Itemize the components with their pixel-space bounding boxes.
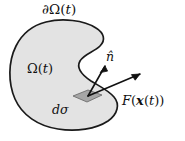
d-sigma-sigma-symbol: σ bbox=[60, 102, 69, 117]
force-x-symbol: x bbox=[135, 93, 144, 108]
region-diagram-svg: ∂Ω(t) Ω(t) dσ n̂ F(x(t)) bbox=[0, 0, 185, 141]
figure-container: ∂Ω(t) Ω(t) dσ n̂ F(x(t)) bbox=[0, 0, 185, 141]
force-close-paren: ) bbox=[159, 93, 164, 108]
d-sigma-label: dσ bbox=[52, 102, 69, 117]
boundary-close-paren: ) bbox=[71, 1, 76, 17]
domain-close-paren: ) bbox=[48, 61, 53, 76]
domain-omega-symbol: Ω bbox=[27, 61, 38, 76]
force-label: F(x(t)) bbox=[121, 93, 164, 108]
boundary-omega-symbol: Ω bbox=[49, 1, 60, 17]
domain-label: Ω(t) bbox=[27, 61, 53, 76]
d-sigma-d-symbol: d bbox=[52, 102, 60, 117]
boundary-label: ∂Ω(t) bbox=[42, 1, 76, 17]
unit-normal-label: n̂ bbox=[106, 49, 114, 64]
boundary-partial-symbol: ∂ bbox=[42, 1, 49, 17]
